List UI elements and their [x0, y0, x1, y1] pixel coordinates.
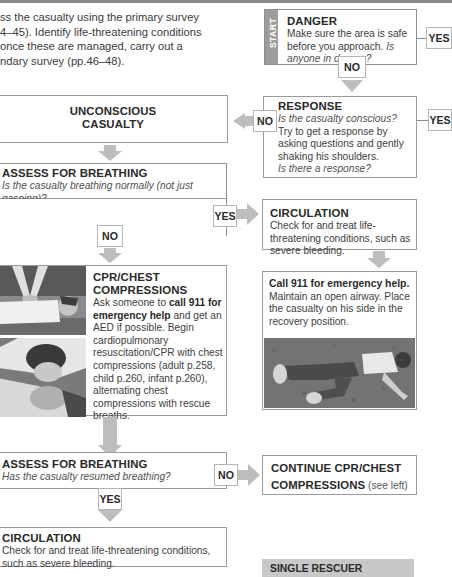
continue-cpr-line2: COMPRESSIONS (see left): [271, 475, 416, 493]
response-box: RESPONSE Is the casualty conscious? Try …: [263, 96, 417, 178]
recovery-position-photo: [264, 338, 415, 408]
danger-yes-line: [417, 38, 426, 39]
arrow-right-icon: [237, 203, 259, 225]
continue-cpr-line1: CONTINUE CPR/CHEST: [271, 462, 416, 475]
assess1-no-tag: NO: [97, 225, 123, 247]
continue-cpr-title: COMPRESSIONS: [271, 479, 365, 491]
rescue-breaths-photo: [0, 338, 86, 417]
assess-breathing-2-box: ASSESS FOR BREATHING Has the casualty re…: [0, 452, 227, 489]
arrow-down-icon: [98, 417, 122, 457]
intro-text: ss the casualty using the primary survey…: [0, 10, 225, 68]
cpr-body-pre: Ask someone to: [93, 297, 169, 308]
intro-line: once these are managed, carry out a: [0, 39, 225, 54]
recovery-body: Maintain an open airway. Place the casua…: [269, 291, 414, 329]
unconscious-line1: UNCONSCIOUS: [0, 105, 227, 118]
danger-no-tag: NO: [338, 56, 366, 78]
response-question1: Is the casualty conscious?: [278, 113, 414, 126]
arrow-down-icon: [98, 510, 122, 524]
start-bar: START: [265, 10, 278, 64]
response-body: Try to get a response by asking question…: [278, 126, 414, 164]
intro-line: ndary survey (pp.46–48).: [0, 54, 225, 69]
assess2-question: Has the casualty resumed breathing?: [2, 471, 212, 484]
circulation-bottom-box: CIRCULATION Check for and treat life-thr…: [0, 527, 227, 567]
assess2-no-tag: NO: [214, 464, 238, 486]
arrow-down-icon: [367, 251, 391, 269]
cpr-title-line1: CPR/CHEST: [93, 271, 225, 284]
cpr-box: CPR/CHEST COMPRESSIONS Ask someone to ca…: [0, 265, 227, 416]
rescue-breaths-icon: [0, 338, 86, 417]
circulation-right-body: Check for and treat life-threatening con…: [270, 220, 415, 258]
cpr-title-line2: COMPRESSIONS: [93, 284, 225, 297]
arrow-down-icon: [98, 145, 122, 161]
response-yes-tag: YES: [428, 109, 452, 131]
intro-line: 4–45). Identify life-threatening conditi…: [0, 25, 225, 40]
assess-breathing-box: ASSESS FOR BREATHING Is the casualty bre…: [0, 163, 227, 199]
arrow-right-icon: [238, 464, 260, 486]
cpr-body: Ask someone to call 911 for emergency he…: [93, 297, 225, 423]
top-rule: [0, 0, 452, 3]
assess2-yes-tag: YES: [98, 488, 122, 510]
intro-line: ss the casualty using the primary survey: [0, 10, 225, 25]
circulation-bottom-body: Check for and treat life-threatening con…: [2, 545, 222, 570]
recovery-call-911: Call 911 for emergency help.: [269, 278, 414, 291]
response-no-tag: NO: [253, 110, 277, 132]
assess1-yes-tag: YES: [213, 205, 237, 227]
response-title: RESPONSE: [278, 100, 414, 113]
danger-title: DANGER: [287, 15, 415, 28]
circulation-right-box: CIRCULATION Check for and treat life-thr…: [262, 199, 417, 250]
assess1-title: ASSESS FOR BREATHING: [2, 167, 212, 180]
start-label: START: [268, 13, 278, 53]
unconscious-casualty-box: UNCONSCIOUS CASUALTY: [0, 95, 228, 143]
circulation-right-title: CIRCULATION: [270, 207, 415, 220]
response-question2: Is there a response?: [278, 163, 414, 176]
response-yes-line: [417, 120, 428, 121]
continue-cpr-note: (see left): [365, 480, 407, 491]
recovery-position-icon: [264, 338, 415, 408]
assess2-title: ASSESS FOR BREATHING: [2, 458, 212, 471]
single-rescuer-header: SINGLE RESCUER: [262, 559, 414, 577]
continue-cpr-box: CONTINUE CPR/CHEST COMPRESSIONS (see lef…: [262, 455, 417, 495]
circulation-bottom-title: CIRCULATION: [2, 532, 222, 545]
arrow-left-icon: [233, 113, 253, 129]
recovery-box: Call 911 for emergency help. Maintain an…: [262, 271, 417, 410]
danger-yes-tag: YES: [426, 27, 452, 49]
arrow-down-icon: [341, 80, 363, 92]
cpr-body-post: and get an AED if possible. Begin cardio…: [93, 310, 223, 422]
chest-compressions-icon: [0, 266, 86, 335]
unconscious-line2: CASUALTY: [0, 118, 227, 131]
chest-compressions-photo: [0, 266, 86, 335]
arrow-down-icon: [98, 248, 122, 264]
